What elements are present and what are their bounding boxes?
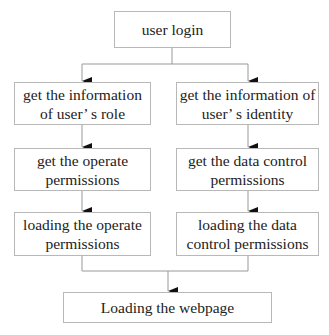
- node-loading-data-control-permissions: loading the data control permissions: [176, 212, 319, 256]
- node-label-line1: get the operate: [37, 151, 128, 170]
- node-loading-operate-permissions: loading the operate permissions: [14, 212, 151, 256]
- node-get-identity-info: get the information of user’ s identity: [176, 82, 319, 125]
- node-get-data-control-permissions: get the data control permissions: [176, 148, 319, 191]
- node-label-line1: get the data control: [188, 151, 307, 170]
- node-label-line2: permissions: [45, 234, 119, 253]
- node-get-operate-permissions: get the operate permissions: [14, 148, 151, 191]
- node-label-line1: loading the data: [198, 215, 297, 234]
- node-label-line1: get the information: [23, 85, 142, 104]
- node-label: user login: [142, 20, 204, 39]
- node-label-line1: loading the operate: [23, 215, 142, 234]
- node-label-line2: of user’ s role: [40, 104, 125, 123]
- node-get-role-info: get the information of user’ s role: [14, 82, 151, 125]
- node-label-line2: control permissions: [187, 234, 309, 253]
- node-label-line2: permissions: [45, 170, 119, 189]
- node-label-line1: get the information of: [180, 85, 316, 104]
- node-label: Loading the webpage: [101, 298, 234, 317]
- node-loading-webpage: Loading the webpage: [63, 292, 272, 323]
- node-label-line2: permissions: [210, 170, 284, 189]
- node-user-login: user login: [114, 11, 231, 48]
- node-label-line2: user’ s identity: [202, 104, 294, 123]
